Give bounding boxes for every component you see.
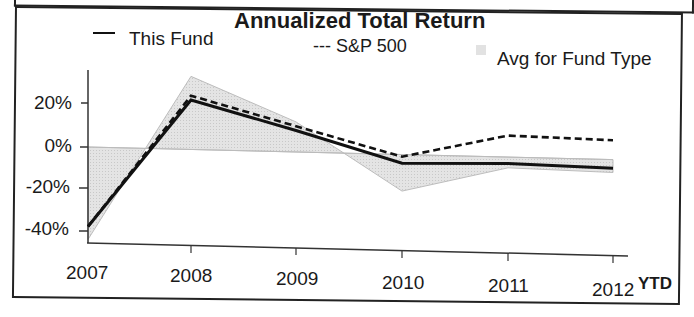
plot-area (0, 0, 694, 317)
avg-fund-type-area (88, 76, 613, 239)
